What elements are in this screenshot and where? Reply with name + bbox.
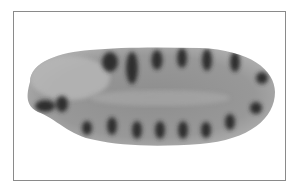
embryo-body [28, 47, 275, 145]
embryo-image [0, 0, 297, 192]
